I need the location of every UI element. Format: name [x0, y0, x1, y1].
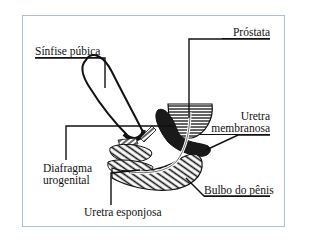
label-diafragma-line2: urogenital: [43, 174, 90, 186]
pubic-symphysis-shape: [83, 55, 156, 146]
label-uretra-membranosa-line2: membranosa: [200, 122, 270, 135]
label-uretra-esponjosa: Uretra esponjosa: [84, 206, 162, 218]
label-sinfise-pubica: Sínfise púbica: [35, 45, 100, 58]
label-prostata: Próstata: [222, 26, 270, 39]
label-bulbo-do-penis: Bulbo do pênis: [204, 184, 270, 197]
label-diafragma-line1: Diafragma: [43, 162, 92, 174]
label-uretra-membranosa-line1: Uretra: [200, 110, 270, 122]
